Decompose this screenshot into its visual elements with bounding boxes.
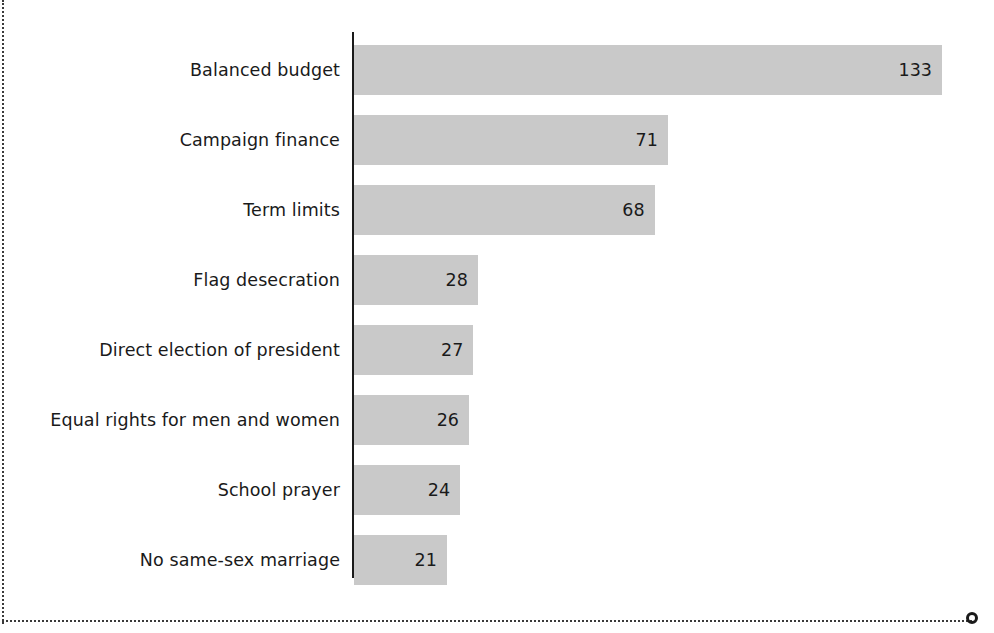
bar: 71	[354, 115, 668, 165]
bar-row: Balanced budget133	[0, 45, 994, 95]
category-label: No same-sex marriage	[0, 535, 340, 585]
circle-marker-icon	[966, 612, 978, 624]
horizontal-bar-chart: Balanced budget133Campaign finance71Term…	[0, 0, 994, 600]
bar-container: 26	[354, 395, 469, 445]
bar-container: 68	[354, 185, 655, 235]
bar-value-label: 28	[446, 255, 468, 305]
bar: 27	[354, 325, 473, 375]
bar-container: 28	[354, 255, 478, 305]
bar-value-label: 26	[437, 395, 459, 445]
bar: 68	[354, 185, 655, 235]
bar-value-label: 27	[441, 325, 463, 375]
category-label: Direct election of president	[0, 325, 340, 375]
bar-value-label: 68	[622, 185, 644, 235]
bar-row: Term limits68	[0, 185, 994, 235]
category-label: Balanced budget	[0, 45, 340, 95]
bar-container: 71	[354, 115, 668, 165]
bar-row: Flag desecration28	[0, 255, 994, 305]
bar-container: 21	[354, 535, 447, 585]
bar: 26	[354, 395, 469, 445]
bar-value-label: 71	[636, 115, 658, 165]
page-border-bottom	[2, 620, 972, 622]
category-label: Equal rights for men and women	[0, 395, 340, 445]
category-label: Campaign finance	[0, 115, 340, 165]
category-label: Term limits	[0, 185, 340, 235]
chart-page: Balanced budget133Campaign finance71Term…	[0, 0, 994, 633]
bar-container: 24	[354, 465, 460, 515]
bar-container: 27	[354, 325, 473, 375]
bar: 133	[354, 45, 942, 95]
bar-row: School prayer24	[0, 465, 994, 515]
bar-row: Equal rights for men and women26	[0, 395, 994, 445]
bar-value-label: 24	[428, 465, 450, 515]
bar-container: 133	[354, 45, 942, 95]
bar-row: No same-sex marriage21	[0, 535, 994, 585]
bar: 21	[354, 535, 447, 585]
category-label: School prayer	[0, 465, 340, 515]
bar: 24	[354, 465, 460, 515]
bar-rows: Balanced budget133Campaign finance71Term…	[0, 45, 994, 605]
bar-row: Direct election of president27	[0, 325, 994, 375]
bar-row: Campaign finance71	[0, 115, 994, 165]
bar-value-label: 133	[899, 45, 932, 95]
category-label: Flag desecration	[0, 255, 340, 305]
bar-value-label: 21	[415, 535, 437, 585]
bar: 28	[354, 255, 478, 305]
